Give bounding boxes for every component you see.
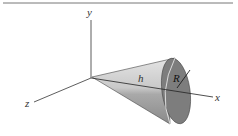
x-axis-label: x xyxy=(214,91,220,103)
z-axis xyxy=(34,78,91,102)
z-axis-label: z xyxy=(24,97,30,109)
y-axis-label: y xyxy=(86,6,92,18)
cone-diagram: y z x h R xyxy=(0,0,238,136)
height-label: h xyxy=(138,72,144,84)
radius-label: R xyxy=(172,72,180,84)
